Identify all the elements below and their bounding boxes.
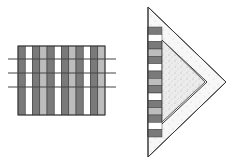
stripe	[69, 46, 76, 115]
stripe	[76, 46, 83, 115]
striped-triangle	[148, 7, 226, 157]
column-stripe	[148, 86, 162, 93]
column-stripe	[148, 115, 162, 122]
column-stripes	[148, 27, 162, 137]
column-stripe	[148, 64, 162, 71]
column-stripe	[148, 108, 162, 115]
striped-rectangle	[8, 46, 116, 115]
column-stripe	[148, 42, 162, 49]
stripe	[25, 46, 32, 115]
stripe	[91, 46, 98, 115]
column-stripe	[148, 27, 162, 34]
stripe	[98, 46, 105, 115]
column-stripe	[148, 93, 162, 100]
column-stripe	[148, 78, 162, 85]
stripe	[47, 46, 54, 115]
stripe	[18, 46, 25, 115]
column-stripe	[148, 34, 162, 41]
column-stripe	[148, 71, 162, 78]
stripe	[62, 46, 69, 115]
column-stripe	[148, 122, 162, 129]
column-stripe	[148, 100, 162, 107]
column-stripe	[148, 56, 162, 63]
column-stripe	[148, 49, 162, 56]
stripe	[33, 46, 40, 115]
diagram-canvas	[0, 0, 234, 168]
column-stripe	[148, 130, 162, 137]
stripe	[54, 46, 61, 115]
stripe	[83, 46, 90, 115]
stripe	[40, 46, 47, 115]
